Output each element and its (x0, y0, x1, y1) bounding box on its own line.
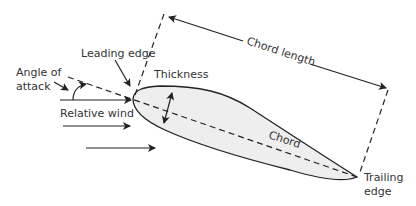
airfoil-diagram: Leading edge Angle of attack Relative wi… (0, 0, 416, 206)
angle-of-attack-label-line2: attack (16, 80, 51, 93)
chord-length-arrow-left (169, 17, 243, 41)
leading-edge-label: Leading edge (81, 47, 156, 60)
chord-length-arrow-right (310, 64, 386, 88)
chord-length-label: Chord length (245, 34, 317, 68)
trailing-edge-label-line1: Trailing (363, 171, 404, 184)
thickness-label: Thickness (153, 68, 209, 81)
angle-of-attack-arc (73, 84, 86, 100)
chord-length-extension-trailing (359, 90, 388, 175)
relative-wind-label: Relative wind (60, 107, 134, 120)
trailing-edge-label-line2: edge (364, 185, 392, 198)
angle-of-attack-pointer (54, 82, 68, 90)
angle-of-attack-label-line1: Angle of (16, 66, 63, 79)
leading-edge-pointer (115, 60, 130, 86)
